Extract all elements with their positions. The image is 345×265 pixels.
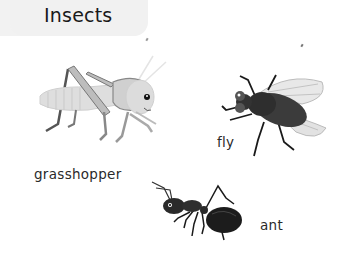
page-title: Insects bbox=[44, 4, 112, 26]
label-fly: fly bbox=[217, 134, 234, 150]
fly-icon bbox=[218, 70, 328, 162]
label-ant: ant bbox=[260, 217, 283, 233]
decorative-speck bbox=[300, 44, 303, 48]
label-grasshopper: grasshopper bbox=[34, 166, 122, 182]
grasshopper-icon bbox=[18, 54, 168, 154]
ant-icon bbox=[150, 178, 250, 248]
decorative-speck bbox=[145, 38, 148, 42]
